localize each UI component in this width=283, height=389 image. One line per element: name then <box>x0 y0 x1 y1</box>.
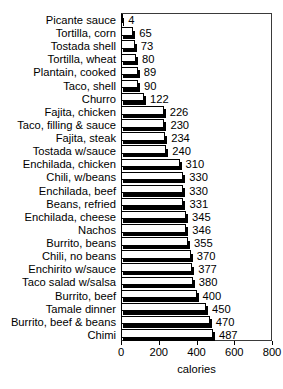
bar-face <box>121 224 186 233</box>
bar-face <box>121 172 183 181</box>
bar-face <box>121 132 165 141</box>
x-axis-title: calories <box>121 363 272 375</box>
bar-face <box>121 250 191 259</box>
x-tick-label: 600 <box>225 346 244 359</box>
bar-face <box>121 80 138 89</box>
bar-face <box>121 211 186 220</box>
bar-face <box>121 303 206 312</box>
x-tick-label: 400 <box>187 346 206 359</box>
bar-face <box>121 93 144 102</box>
bar-face <box>121 263 192 272</box>
x-axis: 0200400600800 <box>121 341 272 345</box>
bar-shadow <box>123 18 124 27</box>
bar-face <box>121 106 164 115</box>
bar-face <box>121 237 188 246</box>
bar-face <box>121 14 123 23</box>
bar-category-label: Chimi <box>0 328 116 343</box>
bar-rows: Picante sauce4Tortilla, corn65Tostada sh… <box>0 13 283 341</box>
x-tick <box>121 341 122 345</box>
bar-face <box>121 67 138 76</box>
bar-face <box>121 277 193 286</box>
x-tick <box>234 341 235 345</box>
bar-face <box>121 198 183 207</box>
x-tick-label: 800 <box>263 346 282 359</box>
bar-face <box>121 54 136 63</box>
x-tick <box>197 341 198 345</box>
bar-face <box>121 145 166 154</box>
bar-face <box>121 159 180 168</box>
bar-face <box>121 185 183 194</box>
bar-face <box>121 290 197 299</box>
bar-face <box>121 27 133 36</box>
x-tick-label: 0 <box>118 346 124 359</box>
x-tick-label: 200 <box>149 346 168 359</box>
x-tick <box>159 341 160 345</box>
bar-face <box>121 119 164 128</box>
bar-face <box>121 316 210 325</box>
bar-face <box>121 329 213 338</box>
bar-face <box>121 40 135 49</box>
calories-bar-chart: Picante sauce4Tortilla, corn65Tostada sh… <box>0 0 283 389</box>
x-tick <box>272 341 273 345</box>
